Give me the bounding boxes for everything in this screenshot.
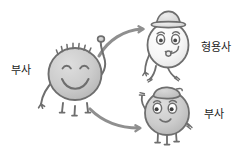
character-adverb-result	[139, 87, 192, 144]
diagram-canvas: 부사 형용사 부사	[0, 0, 249, 153]
arrow-to-adverb-icon	[90, 109, 140, 131]
illustration-scene	[0, 0, 249, 153]
label-source-adverb: 부사	[11, 64, 31, 77]
label-adjective: 형용사	[201, 41, 231, 54]
character-adjective	[143, 11, 189, 82]
arrow-to-adjective-icon	[99, 26, 144, 56]
label-result-adverb: 부사	[204, 108, 224, 121]
character-source-adverb	[39, 36, 106, 116]
